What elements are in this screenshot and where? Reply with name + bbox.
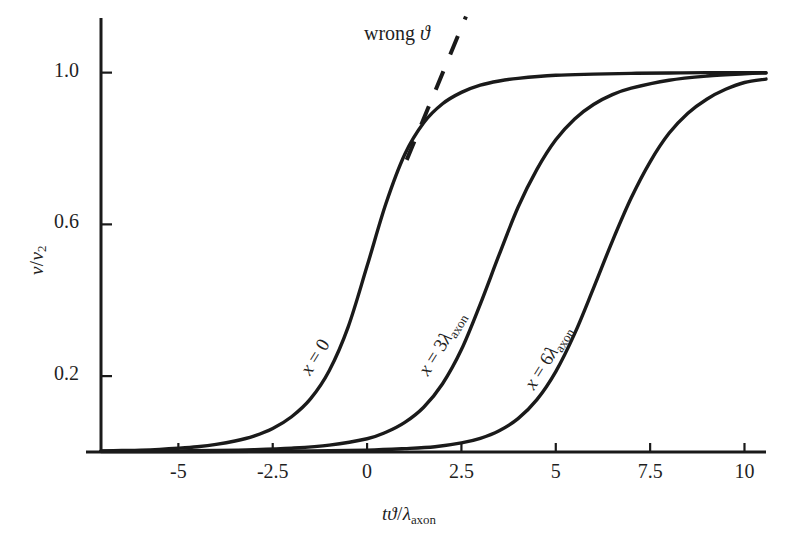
x-tick-label-minus-2-5: -2.5 [255, 460, 291, 483]
annotation-wrong-theta-word: wrong [364, 22, 415, 44]
y-axis-title-denominator: v [26, 252, 47, 260]
annotation-wrong-theta-symbol: ϑ [420, 22, 430, 44]
y-axis-title-numerator: v [26, 267, 47, 275]
x-tick-label-5: 5 [538, 460, 574, 483]
x-tick-label-0: 0 [349, 460, 385, 483]
figure-canvas: v/v2 tϑ/λaxon -5 -2.5 0 2.5 5 7.5 10 0.2… [0, 0, 785, 549]
data-curves [101, 73, 766, 452]
x-axis-title-lambda-subscript: axon [411, 512, 436, 527]
x-axis-title: tϑ/λaxon [382, 503, 436, 528]
x-tick-label-7-5: 7.5 [632, 460, 668, 483]
y-axis-title-slash: / [26, 261, 47, 267]
annotation-wrong-theta: wrong ϑ [364, 22, 430, 45]
y-tick-marks [101, 73, 112, 376]
y-tick-label-0-2: 0.2 [54, 362, 79, 385]
y-axis-title: v/v2 [26, 230, 51, 290]
y-axis-title-denominator-subscript: 2 [34, 246, 49, 252]
y-tick-label-0-6: 0.6 [54, 210, 79, 233]
x-tick-label-10: 10 [726, 460, 762, 483]
x-tick-label-2-5: 2.5 [443, 460, 479, 483]
curve-x-3-axon [101, 73, 766, 451]
x-axis-title-lambda: λ [403, 503, 411, 524]
axis-lines [86, 18, 766, 452]
x-axis-title-theta: ϑ [387, 503, 396, 524]
x-tick-label-minus-5: -5 [160, 460, 196, 483]
y-tick-label-1-0: 1.0 [54, 59, 79, 82]
